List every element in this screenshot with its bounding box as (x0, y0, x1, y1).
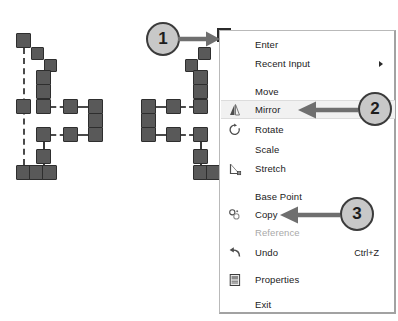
callout-badge-1: 1 (146, 22, 180, 56)
cad-node-mirrored (141, 113, 156, 128)
cad-node (88, 99, 103, 114)
cad-node-mirrored (166, 99, 181, 114)
cad-node (36, 127, 51, 142)
screenshot-root: Enter Recent Input Move Mirror (0, 0, 398, 321)
callout-arrow-3 (278, 204, 340, 226)
callout-label: 2 (370, 99, 379, 119)
menu-item-label: Rotate (255, 124, 284, 135)
menu-item-label: Reference (255, 227, 300, 238)
mirror-icon (227, 102, 243, 118)
menu-item-label: Mirror (255, 104, 280, 115)
rotate-icon (227, 122, 243, 138)
cad-node-mirrored (166, 127, 181, 142)
cad-node (63, 99, 78, 114)
chevron-right-icon (379, 61, 383, 67)
cad-node (36, 84, 51, 99)
cad-node-mirrored (193, 99, 208, 114)
menu-item-properties[interactable]: Properties (221, 270, 395, 289)
menu-item-recent-input[interactable]: Recent Input (221, 54, 395, 73)
callout-badge-3: 3 (340, 197, 374, 231)
cad-node-mirrored (193, 84, 208, 99)
cad-node (16, 33, 31, 48)
cad-node (31, 47, 44, 60)
menu-item-label: Exit (255, 299, 271, 310)
menu-item-label: Scale (255, 144, 279, 155)
right-click-context-menu[interactable]: Enter Recent Input Move Mirror (219, 30, 396, 314)
callout-badge-2: 2 (358, 92, 392, 126)
cad-node (88, 127, 103, 142)
copy-icon (227, 207, 243, 223)
menu-item-label: Recent Input (255, 58, 310, 69)
menu-item-label: Enter (255, 39, 278, 50)
menu-item-exit[interactable]: Exit (221, 295, 395, 314)
cad-node (88, 113, 103, 128)
menu-item-label: Copy (255, 209, 278, 220)
menu-item-label: Properties (255, 274, 299, 285)
cad-node (42, 165, 57, 180)
menu-item-enter[interactable]: Enter (221, 35, 395, 54)
menu-item-label: Undo (255, 247, 278, 258)
menu-item-label: Base Point (255, 191, 302, 202)
callout-label: 3 (352, 204, 361, 224)
callout-arrow-1 (178, 28, 222, 50)
menu-item-shortcut: Ctrl+Z (354, 248, 379, 258)
cad-node (16, 99, 31, 114)
callout-label: 1 (158, 29, 167, 49)
menu-item-scale[interactable]: Scale (221, 140, 395, 159)
cad-node-mirrored (141, 127, 156, 142)
cad-node-mirrored (141, 99, 156, 114)
cad-node-mirrored (193, 149, 208, 164)
undo-icon (227, 245, 243, 261)
callout-arrow-2 (296, 99, 358, 121)
properties-icon (227, 272, 243, 288)
menu-item-undo[interactable]: Undo Ctrl+Z (221, 243, 395, 262)
cad-node (36, 99, 51, 114)
cad-node (36, 149, 51, 164)
menu-item-stretch[interactable]: Stretch (221, 159, 395, 178)
cad-node-mirrored (193, 70, 208, 85)
stretch-icon (227, 161, 243, 177)
cad-node (36, 70, 51, 85)
cad-node (63, 127, 78, 142)
menu-item-label: Stretch (255, 163, 286, 174)
cad-node-mirrored (193, 127, 208, 142)
menu-item-label: Move (255, 86, 279, 97)
